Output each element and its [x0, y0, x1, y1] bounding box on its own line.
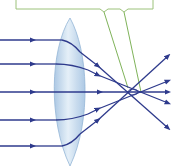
lens-ray-diagram: [0, 0, 172, 168]
callout-box: [16, 0, 153, 12]
